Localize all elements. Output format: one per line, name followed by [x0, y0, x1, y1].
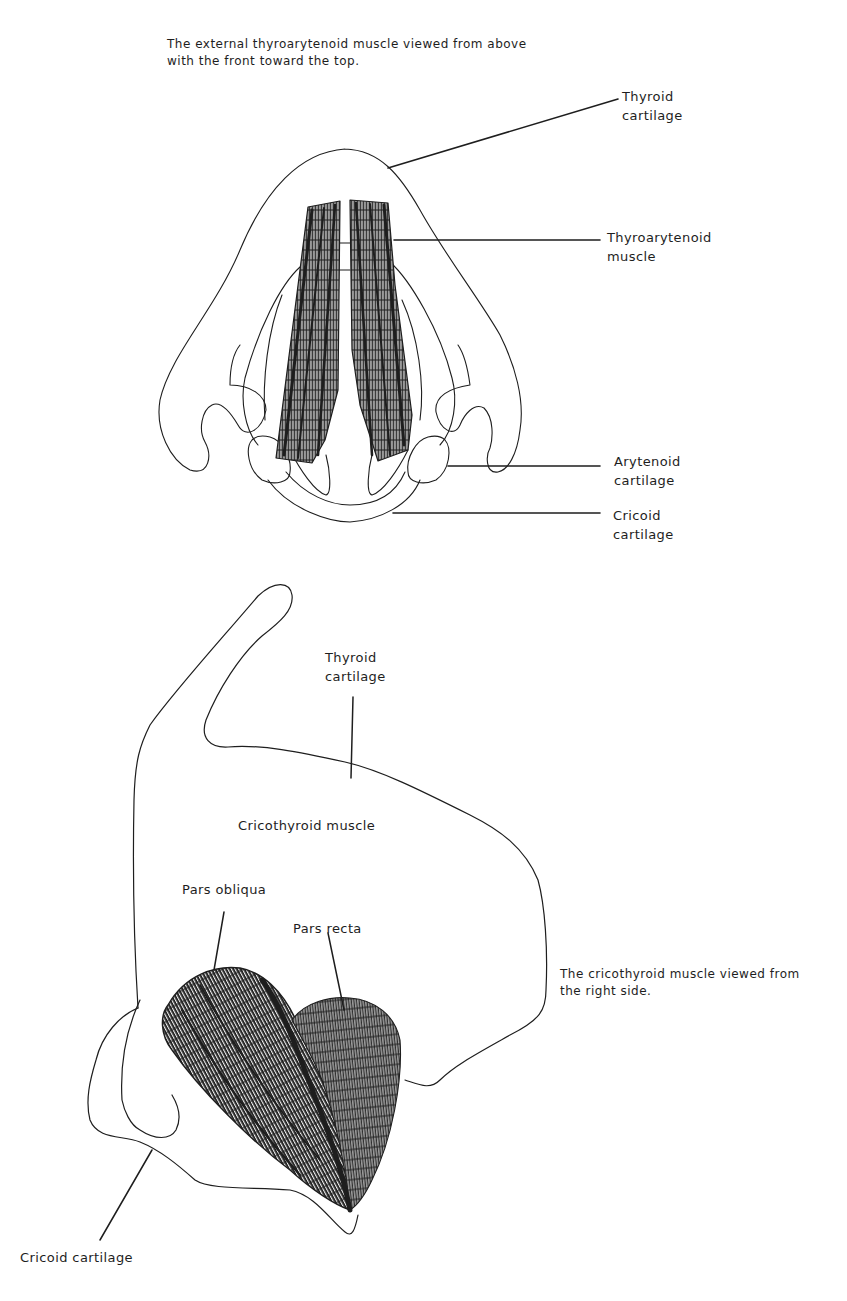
label-pars-obliqua: Pars obliqua — [182, 880, 266, 899]
anatomy-page: The external thyroarytenoid muscle viewe… — [0, 0, 847, 1301]
label-cricoid-cartilage-top: Cricoid cartilage — [613, 506, 674, 544]
label-arytenoid-cartilage: Arytenoid cartilage — [614, 452, 681, 490]
label-cricoid-cartilage-side: Cricoid cartilage — [20, 1248, 133, 1267]
label-thyroid-cartilage-side: Thyroid cartilage — [325, 648, 386, 686]
label-thyroarytenoid-muscle: Thyroarytenoid muscle — [607, 228, 712, 266]
label-pars-recta: Pars recta — [293, 919, 362, 938]
caption-bottom: The cricothyroid muscle viewed from the … — [560, 966, 847, 1000]
label-thyroid-cartilage-top: Thyroid cartilage — [622, 87, 683, 125]
cricoid-cartilage-ring — [268, 480, 420, 522]
figure-bottom-cricothyroid — [88, 585, 547, 1240]
anatomy-illustration — [0, 0, 847, 1301]
arytenoid-cartilage-right — [408, 436, 449, 483]
figure-top-thyroarytenoid — [159, 99, 618, 522]
caption-top: The external thyroarytenoid muscle viewe… — [167, 36, 527, 70]
thyroid-cartilage-outline-top — [159, 149, 521, 472]
label-cricothyroid-muscle: Cricothyroid muscle — [238, 816, 375, 835]
